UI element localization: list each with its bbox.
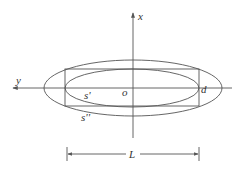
x-axis-label: x [137,10,143,22]
origin-label: o [122,86,128,98]
diagram-canvas: x y o s' s'' d L [0,0,245,173]
end-point-label: d [201,83,207,95]
outer-curve-label: s'' [81,111,91,123]
length-label: L [128,148,135,160]
inner-curve-label: s' [84,89,91,101]
y-axis-label: y [15,74,21,86]
